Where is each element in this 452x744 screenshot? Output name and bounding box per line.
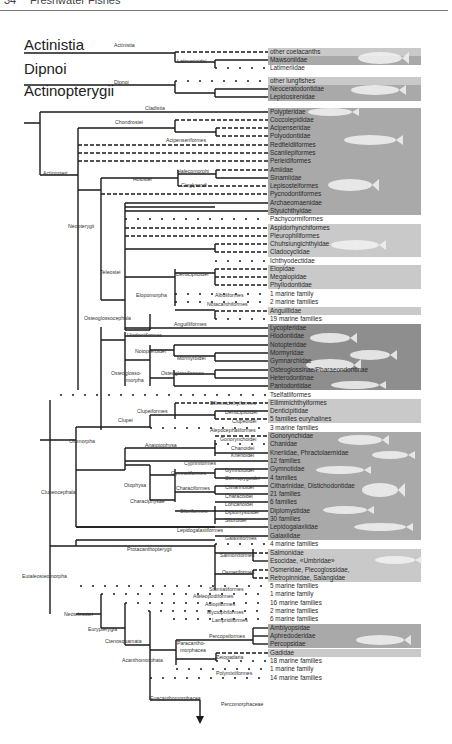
taxon-label: Phyllodontidae [270, 281, 312, 289]
clade-label: Characiformes [176, 485, 210, 491]
taxon-label: Lepisosteiformes [270, 182, 318, 190]
taxon-label: Percopsidae [270, 640, 306, 648]
clade-label: Acanthomorphata [122, 657, 163, 663]
clade-label: Lepidogalaxiiformes [177, 527, 224, 533]
taxon-label: 1 marine family [270, 590, 314, 598]
clade-label: Clupeocephala [41, 489, 76, 495]
clade-label: Polymixiiformes [216, 670, 253, 676]
taxon-label: Elopidae [270, 265, 295, 273]
taxon-label: 6 families [270, 498, 297, 505]
taxon-label: Osteoglossinae/Pharaeondontinae [270, 366, 369, 374]
taxon-label: Hiodontidae [270, 332, 305, 339]
taxon-label: Pachycormiformes [270, 215, 323, 223]
taxon-label: Ichthyodectidae [270, 257, 315, 265]
taxon-label: Heterodontinae [270, 374, 314, 381]
fish-silhouette [316, 466, 364, 474]
taxon-label: Gymnotidae [270, 465, 305, 473]
clade-label: Notacanthiformes [207, 301, 248, 307]
taxon-label: Kneriidae, Phractolaemidae [270, 449, 349, 456]
clade-label: Gonorynchoidei [220, 436, 256, 442]
taxon-label: Tselfatiiformes [270, 391, 311, 398]
clade-label: Galaxiiformes [225, 535, 257, 541]
clade-label: Notopteroidei [135, 348, 166, 354]
taxon-label: Salmonidae [270, 549, 304, 556]
taxon-label: 2 marine families [270, 298, 318, 305]
taxon-label: Latimeriidae [270, 64, 305, 71]
taxon-label: Lepidogalaxiidae [270, 523, 318, 531]
fish-silhouette [323, 506, 367, 514]
taxon-label: Perleidiformes [270, 157, 311, 164]
fish-silhouette [331, 240, 379, 250]
taxon-label: 1 marine family [270, 665, 314, 673]
taxon-label: Aphredoderidae [270, 632, 316, 640]
clade-label: Lampridiformes [212, 617, 248, 623]
taxon-label: Amblyopsidae [270, 624, 311, 632]
clade-label: Cladistia [145, 105, 165, 111]
taxon-label: Archaeomaenidae [270, 199, 322, 206]
taxon-label: 1 marine family [270, 290, 314, 298]
clade-label: Actinistia [114, 42, 135, 48]
fish-silhouette [358, 52, 402, 64]
clade-label: Chondrostei [115, 119, 143, 125]
clade-label: Ateleopodiformes [193, 593, 234, 599]
taxon-label: 12 families [270, 457, 301, 464]
taxon-label: Sinamiidae [270, 174, 302, 181]
clade-label: Loricarioidei [225, 501, 253, 507]
taxon-label: Gonorynchidae [270, 432, 314, 440]
fish-silhouette [331, 381, 379, 389]
clade-label: Denticipitoidei [225, 409, 257, 415]
taxon-label: 2 marine families [270, 607, 318, 614]
fish-silhouette [351, 85, 399, 95]
clade-label: Salmoniformes [220, 552, 255, 558]
clade-label: Halecomorphi [177, 168, 209, 174]
clade-label: Denticipitoidei [176, 271, 208, 277]
clade-label: Protacanthopterygii [127, 546, 172, 552]
taxon-label: 5 families euryhalines [270, 415, 331, 423]
clade-label: Anguilliformes [174, 321, 207, 327]
clade-label: Gymnotiformes [171, 470, 207, 476]
taxon-label: Lepidosirenidae [270, 93, 316, 101]
clade-label: Osteoglossocephala [84, 315, 131, 321]
taxon-label: Pleurophiliformes [270, 232, 319, 240]
clade-label: Anatotophysa [145, 442, 177, 448]
tip-lines [40, 52, 268, 678]
taxon-label: 30 families [270, 515, 301, 522]
clade-label: Ellimmichthyiformes [210, 400, 257, 406]
fish-silhouette [350, 350, 390, 360]
clade-label: Osmeriformes [222, 569, 255, 575]
taxon-label: Gymnarchidae [270, 357, 312, 365]
clade-label: Clupeiformes [137, 408, 168, 414]
fish-silhouette [310, 333, 350, 343]
clade-label: Teleostei [100, 269, 120, 275]
fish-silhouette [338, 435, 382, 445]
clade-label: Aulopiformes [205, 601, 236, 607]
clade-label: Cypriniformes [184, 460, 216, 466]
taxon-label: 19 marine families [270, 315, 322, 322]
fish-silhouette [356, 635, 404, 645]
clade-label: Stomiatiformes [209, 586, 244, 592]
taxon-label: 3 marine families [270, 424, 318, 431]
group-title: Dipnoi [24, 60, 67, 77]
clade-label: Elopomorpha [136, 292, 167, 298]
clade-label: Characoidei [225, 493, 253, 499]
taxon-label: Mormyridae [270, 349, 304, 357]
taxon-label: Esocidae, «Umbridae» [270, 557, 335, 564]
clade-label: Acipenseriformes [166, 137, 206, 143]
clade-label: Siluroidei [225, 517, 246, 523]
taxon-label: 4 marine families [270, 540, 318, 547]
taxon-label: Scanilepiformes [270, 149, 315, 157]
clade-label: morphacea [180, 647, 206, 653]
taxon-label: Cladocyclidae [270, 248, 310, 256]
clade-label: Diplomystoidei [225, 509, 259, 515]
taxon-label: 6 marine families [270, 615, 318, 622]
taxon-label: other coelacanths [270, 48, 320, 55]
fish-silhouette [328, 179, 372, 191]
taxon-label: Ellimmichthyiformes [270, 399, 327, 407]
fish-silhouette [344, 135, 396, 145]
taxon-label: Megalopidae [270, 273, 307, 281]
taxon-label: Amiidae [270, 166, 294, 173]
clade-label: Paracantho- [177, 640, 206, 646]
taxon-label: 5 marine families [270, 582, 318, 589]
clade-label: Clupeoidei [232, 418, 257, 424]
taxon-label: Chanidae [270, 440, 298, 447]
